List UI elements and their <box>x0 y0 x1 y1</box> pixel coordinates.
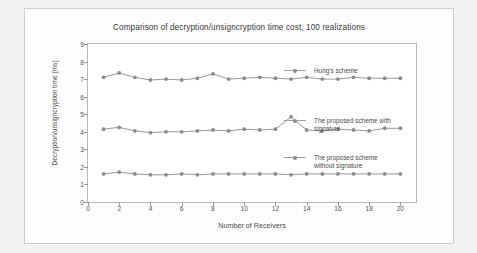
data-point <box>242 127 246 131</box>
y-tick-mark <box>84 114 88 115</box>
legend-marker-0 <box>293 69 297 73</box>
data-point <box>133 129 137 133</box>
y-tick-mark <box>84 149 88 150</box>
data-point <box>398 126 402 130</box>
data-point <box>180 172 184 176</box>
data-point <box>211 72 215 76</box>
x-tick-mark <box>244 202 245 206</box>
data-point <box>289 77 293 81</box>
x-tick-mark <box>400 202 401 206</box>
data-point <box>149 131 153 135</box>
data-point <box>258 172 262 176</box>
data-point <box>164 130 168 134</box>
data-point <box>242 172 246 176</box>
x-tick-mark <box>88 202 89 206</box>
y-tick-mark <box>84 184 88 185</box>
legend-entry-2: The proposed scheme without signature <box>314 154 378 169</box>
data-point <box>320 172 324 176</box>
data-point <box>102 75 106 79</box>
y-tick-mark <box>84 132 88 133</box>
x-tick-mark <box>338 202 339 206</box>
data-point <box>289 115 293 119</box>
x-tick-label: 18 <box>365 205 372 212</box>
x-tick-label: 12 <box>272 205 279 212</box>
x-tick-mark <box>213 202 214 206</box>
x-tick-label: 16 <box>334 205 341 212</box>
legend-entry-0: Hung's scheme <box>314 67 358 75</box>
data-point <box>227 129 231 133</box>
data-point <box>211 172 215 176</box>
data-point <box>117 71 121 75</box>
data-point <box>164 77 168 81</box>
data-point <box>149 78 153 82</box>
x-tick-label: 8 <box>211 205 215 212</box>
data-point <box>367 172 371 176</box>
data-point <box>305 75 309 79</box>
x-tick-mark <box>275 202 276 206</box>
data-point <box>274 127 278 131</box>
y-tick-mark <box>84 62 88 63</box>
x-tick-label: 14 <box>303 205 310 212</box>
legend-marker-2 <box>293 156 297 160</box>
data-point <box>195 173 199 177</box>
data-point <box>227 77 231 81</box>
data-point <box>211 128 215 132</box>
x-tick-mark <box>182 202 183 206</box>
screenshot-root: Comparison of decryption/unsigncryption … <box>0 0 477 253</box>
data-point <box>320 77 324 81</box>
data-point <box>305 172 309 176</box>
x-tick-mark <box>369 202 370 206</box>
data-point <box>117 125 121 129</box>
x-tick-label: 20 <box>397 205 404 212</box>
data-point <box>383 76 387 80</box>
x-tick-mark <box>119 202 120 206</box>
data-point <box>133 172 137 176</box>
chart-title: Comparison of decryption/unsigncryption … <box>25 23 453 32</box>
y-tick-mark <box>84 97 88 98</box>
data-point <box>102 127 106 131</box>
data-point <box>117 170 121 174</box>
legend-marker-1 <box>293 119 297 123</box>
x-tick-label: 4 <box>149 205 153 212</box>
data-point <box>274 76 278 80</box>
x-tick-label: 6 <box>180 205 184 212</box>
x-tick-mark <box>307 202 308 206</box>
data-point <box>258 128 262 132</box>
data-point <box>336 172 340 176</box>
data-point <box>102 172 106 176</box>
series-2 <box>102 170 403 176</box>
x-tick-label: 2 <box>117 205 121 212</box>
data-point <box>242 76 246 80</box>
data-point <box>180 78 184 82</box>
data-point <box>180 130 184 134</box>
x-tick-mark <box>150 202 151 206</box>
figure-card: Comparison of decryption/unsigncryption … <box>24 8 454 244</box>
x-tick-label: 10 <box>241 205 248 212</box>
data-point <box>305 128 309 132</box>
y-tick-mark <box>84 167 88 168</box>
data-point <box>149 173 153 177</box>
data-point <box>227 172 231 176</box>
y-tick-mark <box>84 79 88 80</box>
y-axis-label: Decryption/unsigncryption time (ms) <box>49 33 61 193</box>
data-point <box>336 77 340 81</box>
x-tick-label: 0 <box>86 205 90 212</box>
data-point <box>383 172 387 176</box>
series-line <box>104 172 401 175</box>
x-axis-label: Number of Receivers <box>87 221 417 230</box>
plot-area: 0123456789 02468101214161820 Hung's sche… <box>87 43 417 203</box>
data-point <box>289 173 293 177</box>
legend-entry-1: The proposed scheme with signature <box>314 117 391 132</box>
data-point <box>164 173 168 177</box>
data-point <box>195 129 199 133</box>
data-point <box>352 172 356 176</box>
data-point <box>398 172 402 176</box>
data-point <box>352 75 356 79</box>
data-point <box>274 172 278 176</box>
data-point <box>398 76 402 80</box>
y-tick-mark <box>84 44 88 45</box>
data-point <box>367 76 371 80</box>
data-point <box>133 75 137 79</box>
data-point <box>195 76 199 80</box>
data-point <box>258 75 262 79</box>
